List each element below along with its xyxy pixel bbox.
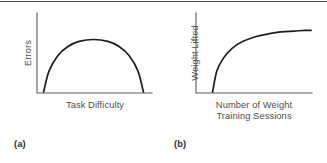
- panel-a: Errors Task Difficulty (a): [0, 0, 163, 163]
- axes-b: [196, 13, 312, 93]
- y-axis-label-a: Errors: [23, 21, 33, 85]
- plot-area-b: [163, 0, 327, 163]
- x-axis-label-a: Task Difficulty: [20, 100, 170, 112]
- figure-root: Errors Task Difficulty (a) Weight Lifted…: [0, 0, 327, 163]
- x-axis-label-b-line2: Training Sessions: [179, 111, 327, 123]
- curve-negatively-accelerated: [213, 30, 311, 92]
- panel-caption-b: (b): [174, 138, 186, 149]
- curve-inverted-u: [44, 40, 144, 92]
- axes-a: [37, 13, 152, 93]
- panel-caption-a: (a): [14, 138, 26, 149]
- panel-b: Weight Lifted Number of Weight Training …: [163, 0, 327, 163]
- x-axis-label-b-line1: Number of Weight: [179, 100, 327, 112]
- y-axis-label-b: Weight Lifted: [190, 14, 200, 92]
